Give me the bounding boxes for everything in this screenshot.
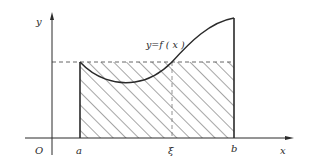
curve-label: y=f ( x ): [145, 39, 185, 50]
y-axis-label: y: [35, 16, 42, 27]
b-label: b: [231, 143, 237, 154]
integral-mean-value-diagram: y x O a ξ b y=f ( x ): [0, 0, 312, 167]
x-axis-arrow-icon: [285, 136, 294, 140]
xi-label: ξ: [168, 145, 174, 156]
x-axis-label: x: [280, 145, 286, 156]
y-axis-arrow-icon: [50, 12, 54, 20]
origin-label: O: [35, 145, 43, 156]
a-label: a: [76, 145, 82, 156]
